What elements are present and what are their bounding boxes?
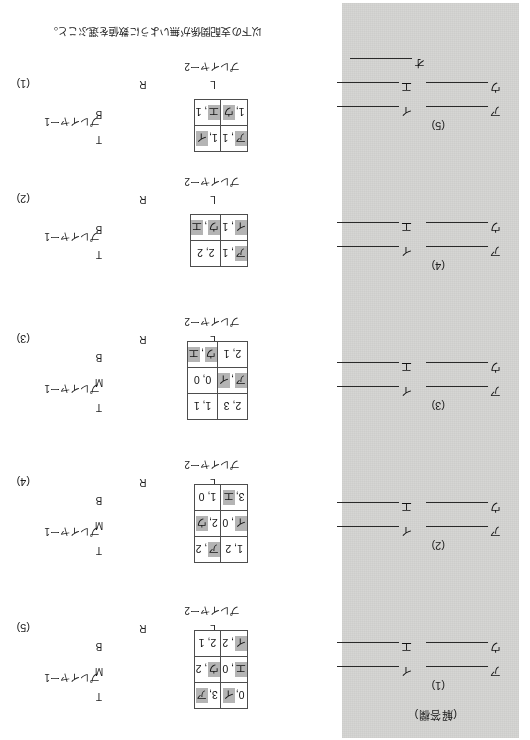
row-header-T: T [92,538,106,563]
answer-blank-ウ[interactable]: ウ [426,220,501,232]
payoff-cell[interactable]: 0, 0 [188,368,218,394]
answer-blank-ウ[interactable]: ウ [426,360,501,372]
payoff-cell[interactable]: 2, 3 [218,394,248,420]
cell-token: 1, 1 [193,401,213,413]
column-header-R: R [108,79,178,90]
answer-blank-ア[interactable]: ア [426,524,501,536]
payoff-cell[interactable]: 2, 1 [218,342,248,368]
row-header-T: T [92,127,106,152]
player2-label: プレイヤー2 [184,604,240,619]
cell-token: , 2 [221,637,235,649]
payoff-cell[interactable]: 3, エ [221,485,248,511]
cell-token: , 1 [221,247,235,259]
payoff-cell[interactable]: エ, 0 [221,657,248,683]
payoff-cell[interactable]: 2, ウ [194,511,221,537]
question-number: (1) [17,78,30,90]
payoff-cell[interactable]: 1, 0 [194,485,221,511]
question-number: (5) [17,622,30,634]
payoff-cell[interactable]: 0, イ [221,683,248,709]
payoff-cell[interactable]: 2, 2 [191,241,221,267]
blank-label: オ [414,56,425,68]
cell-token: 1, [235,106,246,118]
answer-blank-ア[interactable]: ア [426,384,501,396]
payoff-cell[interactable]: ウ, エ [188,342,218,368]
cell-token: ウ [205,347,217,362]
blank-rule [426,362,488,363]
answer-blank-イ[interactable]: イ [337,244,412,256]
answer-blank-オ[interactable]: オ [350,56,425,68]
row-header-B: B [92,488,106,513]
blank-rule [426,502,488,503]
answer-blank-エ[interactable]: エ [337,220,412,232]
payoff-cell[interactable]: 1, 2 [221,537,248,563]
blank-rule [350,58,412,59]
payoff-matrix-5: 0, イ 3, ア エ, 0 ウ, 2 イ, 2 2, 1 [194,630,248,709]
blank-label: ア [490,664,501,676]
cell-token: イ [218,373,230,388]
row-header-B: B [92,634,106,659]
payoff-cell[interactable]: 3, ア [194,683,221,709]
column-header-L: L [178,79,248,90]
player2-label: プレイヤー2 [184,458,240,473]
cell-token: , 2 [195,663,209,675]
cell-token: 1, [208,132,219,144]
answer-blank-ウ[interactable]: ウ [426,80,501,92]
payoff-cell[interactable]: ア, 2 [194,537,221,563]
answer-blank-イ[interactable]: イ [337,104,412,116]
answer-blank-イ[interactable]: イ [337,384,412,396]
answer-blank-エ[interactable]: エ [337,360,412,372]
payoff-cell[interactable]: ア, 1 [221,126,248,152]
answer-blank-ウ[interactable]: ウ [426,500,501,512]
blank-label: エ [401,360,412,372]
column-header-L: L [178,194,248,205]
payoff-cell[interactable]: イ, 1 [221,215,248,241]
answer-blank-row: ア イ [337,244,501,256]
cell-token: ア [235,131,247,146]
payoff-cell[interactable]: ア, 1 [221,241,248,267]
payoff-cell[interactable]: イ, 0 [221,511,248,537]
blank-label: ウ [490,500,501,512]
cell-token: エ [223,490,235,505]
row-header-T: T [92,684,106,709]
payoff-cell[interactable]: ウ, 2 [194,657,221,683]
payoff-matrix-2: ア, 1 2, 2 イ, 1 ウ, エ [190,214,248,267]
answer-blank-ア[interactable]: ア [426,244,501,256]
payoff-cell[interactable]: イ, 2 [221,631,248,657]
cell-token: 0, 0 [193,375,213,387]
answer-blank-ア[interactable]: ア [426,104,501,116]
cell-token: イ [223,688,235,703]
answer-blank-ア[interactable]: ア [426,664,501,676]
answer-blank-エ[interactable]: エ [337,500,412,512]
row-header-T: T [92,395,106,420]
answer-blank-イ[interactable]: イ [337,524,412,536]
table-row: エ, 0 ウ, 2 [194,657,247,683]
blank-rule [337,106,399,107]
payoff-matrix-3: 2, 3 1, 1 ア, イ 0, 0 2, 1 ウ, エ [187,341,248,420]
blank-label: ウ [490,80,501,92]
payoff-cell[interactable]: 1, ウ [221,100,248,126]
cell-token: , 1 [221,132,235,144]
cell-token: イ [235,636,247,651]
payoff-cell[interactable]: 1, 1 [188,394,218,420]
payoff-cell[interactable]: エ, 1 [194,100,221,126]
blank-label: エ [401,640,412,652]
blank-rule [426,642,488,643]
answer-blank-エ[interactable]: エ [337,80,412,92]
payoff-cell[interactable]: 1, イ [194,126,221,152]
payoff-cell[interactable]: ア, イ [218,368,248,394]
cell-token: , [230,374,235,386]
answer-blank-イ[interactable]: イ [337,664,412,676]
table-row: ア, イ 0, 0 [188,368,248,394]
payoff-cell[interactable]: ウ, エ [191,215,221,241]
answer-blank-ウ[interactable]: ウ [426,640,501,652]
cell-token: 2, [208,517,219,529]
blank-label: ア [490,384,501,396]
cell-token: ア [235,246,247,261]
row-header-B: B [92,102,106,127]
cell-token: 2, 2 [196,248,216,260]
answer-blank-エ[interactable]: エ [337,640,412,652]
cell-token: ウ [223,105,235,120]
blank-label: ア [490,244,501,256]
payoff-cell[interactable]: 2, 1 [194,631,221,657]
cell-token: 2, 3 [223,401,243,413]
